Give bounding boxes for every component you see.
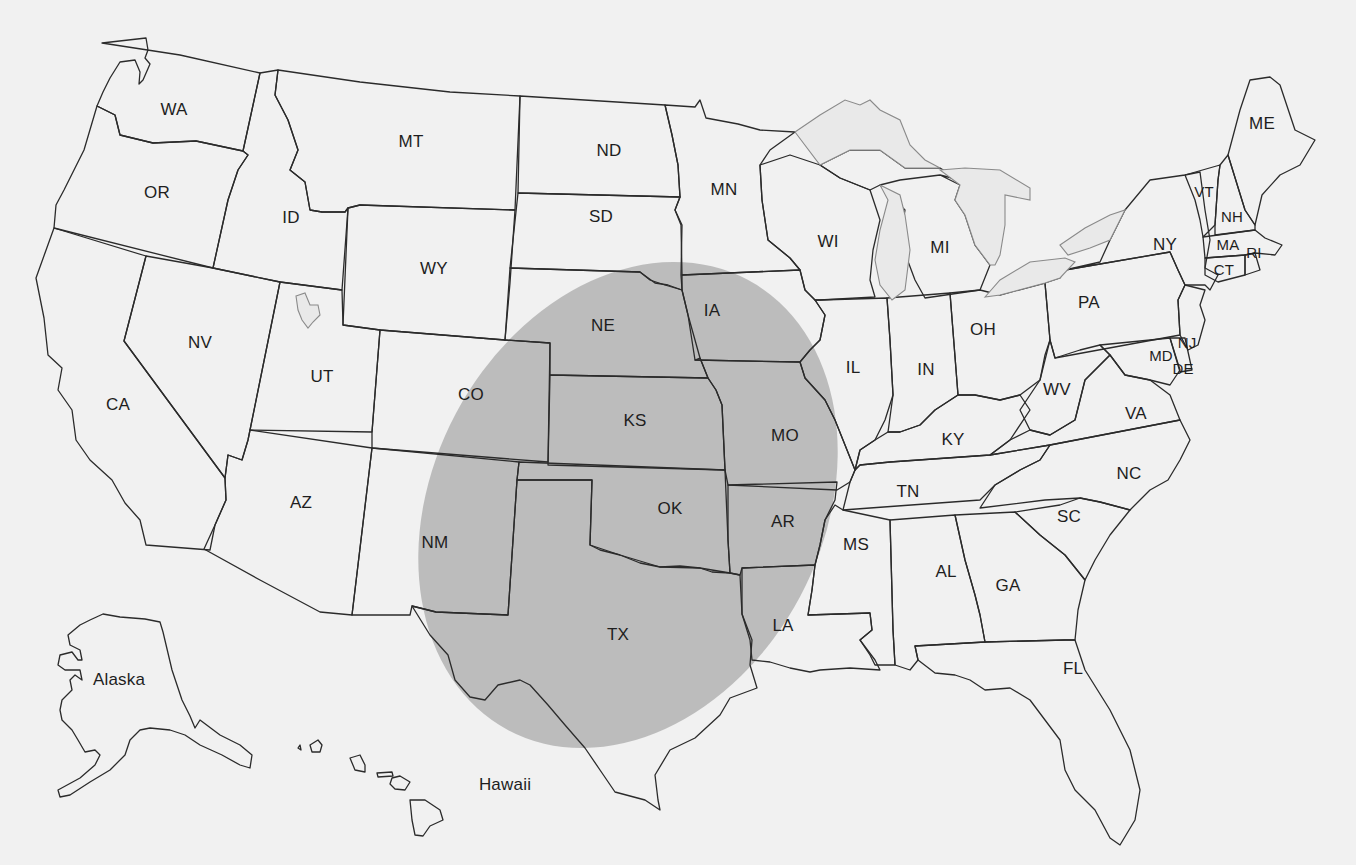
us-map: WA OR CA ID NV MT WY UT AZ CO NM ND SD N…: [0, 0, 1356, 865]
label-ia: IA: [704, 301, 720, 321]
label-nc: NC: [1117, 464, 1142, 484]
label-pa: PA: [1078, 293, 1100, 313]
label-wa: WA: [160, 100, 187, 120]
state-oh[interactable]: [950, 283, 1050, 400]
label-wi: WI: [817, 232, 838, 252]
state-hi-molokai[interactable]: [377, 772, 393, 777]
label-nh: NH: [1221, 208, 1243, 225]
label-vt: VT: [1194, 183, 1214, 200]
label-nd: ND: [597, 141, 622, 161]
label-ky: KY: [941, 430, 964, 450]
label-ca: CA: [106, 395, 130, 415]
label-va: VA: [1125, 404, 1147, 424]
label-tx: TX: [607, 625, 629, 645]
label-nj: NJ: [1178, 334, 1197, 351]
state-hi-kauai[interactable]: [310, 740, 322, 752]
label-hi: Hawaii: [479, 775, 531, 795]
label-md: MD: [1149, 347, 1173, 364]
label-al: AL: [935, 562, 956, 582]
label-in: IN: [917, 360, 934, 380]
state-mt[interactable]: [275, 70, 520, 212]
label-mt: MT: [399, 132, 424, 152]
state-hi-niihau[interactable]: [298, 745, 301, 750]
state-hi-maui[interactable]: [390, 776, 410, 790]
label-nm: NM: [422, 533, 449, 553]
label-ut: UT: [310, 367, 333, 387]
label-ar: AR: [771, 512, 795, 532]
label-ak: Alaska: [93, 670, 145, 690]
label-tn: TN: [896, 482, 919, 502]
state-nm[interactable]: [352, 448, 519, 615]
us-map-svg: [0, 0, 1356, 865]
label-mi: MI: [930, 238, 949, 258]
label-ct: CT: [1214, 261, 1234, 278]
state-hi-big-island[interactable]: [410, 800, 443, 836]
label-sc: SC: [1057, 507, 1081, 527]
label-nv: NV: [188, 333, 212, 353]
label-ne: NE: [591, 316, 615, 336]
label-fl: FL: [1063, 659, 1083, 679]
state-fl[interactable]: [915, 640, 1140, 845]
state-hi-oahu[interactable]: [350, 755, 365, 772]
label-wy: WY: [420, 259, 448, 279]
label-mo: MO: [771, 426, 799, 446]
label-ks: KS: [623, 411, 646, 431]
label-ny: NY: [1153, 235, 1177, 255]
label-oh: OH: [970, 320, 996, 340]
label-ri: RI: [1246, 244, 1261, 261]
label-ma: MA: [1217, 236, 1240, 253]
state-az[interactable]: [204, 430, 372, 615]
label-co: CO: [458, 385, 484, 405]
label-wv: WV: [1043, 380, 1071, 400]
label-la: LA: [772, 616, 793, 636]
label-sd: SD: [589, 207, 613, 227]
label-de: DE: [1172, 360, 1193, 377]
label-ok: OK: [658, 499, 683, 519]
label-me: ME: [1249, 114, 1275, 134]
label-mn: MN: [711, 180, 738, 200]
label-or: OR: [144, 183, 170, 203]
label-id: ID: [282, 208, 299, 228]
state-ak[interactable]: [58, 614, 252, 797]
state-wa[interactable]: [97, 38, 260, 151]
label-az: AZ: [290, 493, 312, 513]
label-ms: MS: [843, 535, 869, 555]
label-ga: GA: [996, 576, 1021, 596]
label-il: IL: [846, 358, 861, 378]
